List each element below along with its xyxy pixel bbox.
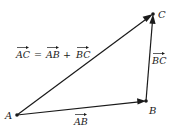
label-vector-ab: AB: [73, 113, 88, 127]
label-vector-bc: BC: [151, 52, 167, 66]
equation-ac-equals-ab-plus-bc: AC = AB + BC: [15, 46, 91, 60]
equation-lhs: AC: [15, 49, 31, 60]
equation-term1: AB: [45, 49, 60, 60]
vector-ac: [17, 14, 153, 115]
svg-text:BC: BC: [151, 55, 167, 66]
label-point-a: A: [4, 110, 12, 121]
point-b: [144, 99, 148, 103]
equation-equals: =: [34, 49, 42, 60]
label-point-c: C: [158, 9, 166, 20]
svg-text:AB: AB: [73, 116, 88, 127]
equation-plus: +: [63, 49, 71, 60]
point-a: [15, 113, 19, 117]
label-point-b: B: [148, 105, 156, 116]
point-c: [151, 12, 155, 16]
equation-term2: BC: [75, 49, 91, 60]
vector-addition-diagram: A B C AB BC AC = AB + BC: [0, 0, 171, 134]
